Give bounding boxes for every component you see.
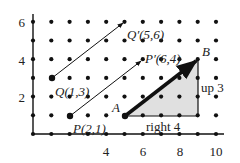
grid-dot (86, 76, 90, 80)
grid-dot (196, 20, 200, 24)
grid-dot (196, 113, 200, 117)
grid-dot (86, 113, 90, 117)
y-tick-labels: 2 4 6 (19, 15, 26, 105)
svg-text:4: 4 (103, 144, 110, 159)
grid-dot (159, 113, 163, 117)
grid-dot (68, 57, 72, 61)
grid-dot (104, 57, 108, 61)
grid-dot (122, 95, 126, 99)
grid-dot (214, 113, 218, 117)
label-p: P(2,1) (72, 121, 106, 136)
grid-dot (49, 57, 53, 61)
svg-text:4: 4 (19, 53, 26, 68)
translation-diagram: 4 6 8 10 2 4 6 Q′(5,6) P′(6,4) Q(1,3) P(… (0, 0, 240, 163)
grid-dot (141, 95, 145, 99)
grid-dot (159, 76, 163, 80)
grid-dot (104, 113, 108, 117)
grid-dot (214, 95, 218, 99)
grid-dot (122, 57, 126, 61)
grid-dot (159, 95, 163, 99)
grid-dot (196, 76, 200, 80)
grid-dot (141, 20, 145, 24)
label-q-prime: Q′(5,6) (127, 27, 164, 42)
grid-dot (49, 95, 53, 99)
grid-dot (104, 95, 108, 99)
x-tick-labels: 4 6 8 10 (103, 144, 223, 159)
grid-dot (122, 38, 126, 42)
grid-dot (196, 38, 200, 42)
grid-dot (122, 76, 126, 80)
grid-dot (177, 38, 181, 42)
grid-dot (214, 38, 218, 42)
label-q: Q(1,3) (55, 84, 89, 99)
svg-text:6: 6 (19, 15, 26, 30)
grid-dot (196, 95, 200, 99)
grid-dot (214, 57, 218, 61)
grid-dot (104, 38, 108, 42)
label-up-step: up 3 (201, 80, 224, 95)
point-p (67, 113, 73, 119)
grid-dot (141, 76, 145, 80)
svg-text:10: 10 (210, 144, 223, 159)
grid-dot (68, 38, 72, 42)
grid-dot (49, 113, 53, 117)
label-b: B (202, 44, 210, 59)
grid-dot (141, 113, 145, 117)
label-a: A (111, 100, 120, 115)
svg-text:8: 8 (177, 144, 184, 159)
grid-dot (177, 20, 181, 24)
grid-dot (68, 20, 72, 24)
grid-dot (177, 113, 181, 117)
grid-dot (86, 57, 90, 61)
label-p-prime: P′(6,4) (144, 51, 181, 66)
grid-dot (177, 95, 181, 99)
svg-text:2: 2 (19, 90, 26, 105)
grid-dot (196, 57, 200, 61)
grid-dot (104, 76, 108, 80)
grid-dot (49, 38, 53, 42)
grid-dot (159, 20, 163, 24)
grid-dot (49, 20, 53, 24)
grid-dot (104, 20, 108, 24)
point-q (49, 75, 55, 81)
grid-dot (68, 76, 72, 80)
arrow-q-to-qprime (52, 23, 123, 78)
svg-text:6: 6 (140, 144, 147, 159)
grid-dot (86, 20, 90, 24)
grid-dot (86, 38, 90, 42)
label-right-step: right 4 (146, 119, 181, 134)
point-a (122, 113, 128, 119)
grid-dot (214, 20, 218, 24)
